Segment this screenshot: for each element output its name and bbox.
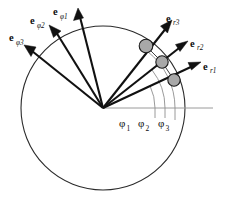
label-ephi2-base: e [30,15,35,26]
vector-diagram: e r1 e r2 e r3 e φ1 e φ2 e φ3 φ 1 [0,0,228,201]
label-ephi1-base: e [53,6,58,17]
label-ephi3-base: e [9,32,14,43]
label-phi1: φ 1 [119,117,131,133]
label-er3-base: e [166,13,171,24]
label-phi2-subscript: 2 [146,124,150,133]
figure-root: e r1 e r2 e r3 e φ1 e φ2 e φ3 φ 1 [0,0,228,201]
label-phi3-subscript: 3 [166,124,170,133]
label-ephi2: e φ2 [30,15,45,30]
vector-ephi3 [24,45,103,108]
label-er2: e r2 [190,38,204,52]
label-er1: e r1 [203,61,216,75]
vector-ephi1 [74,8,104,108]
label-er1-base: e [203,61,208,72]
vector-ephi2 [49,25,103,108]
label-ephi2-subscript: φ2 [37,22,45,30]
vector-ephi3-shaft [32,51,103,108]
vector-er3-shaft [103,27,167,108]
label-er2-subscript: r2 [197,44,204,52]
label-ephi3: e φ3 [9,32,24,47]
vector-ephi1-shaft [80,17,103,108]
label-ephi1-subscript: φ1 [60,13,68,21]
label-phi1-symbol: φ [119,117,125,129]
label-ephi3-subscript: φ3 [16,39,24,47]
node-dot-3[interactable] [139,39,153,53]
vector-ephi1-arrowhead [74,8,84,21]
label-phi3: φ 3 [158,117,170,133]
node-dot-2[interactable] [156,56,168,68]
label-phi2: φ 2 [138,117,150,133]
label-er2-base: e [190,38,195,49]
angle-arc-phi1 [150,86,155,108]
vector-ephi2-shaft [56,32,103,108]
vector-ephi3-arrowhead [24,45,36,57]
label-er3-subscript: r3 [173,19,180,27]
label-ephi1: e φ1 [53,6,68,21]
label-phi3-symbol: φ [158,117,164,129]
label-er1-subscript: r1 [210,67,216,75]
label-phi1-subscript: 1 [127,124,131,133]
label-phi2-symbol: φ [138,117,144,129]
angle-arc-phi2 [152,70,165,108]
vector-er1-arrowhead [188,62,201,70]
node-dot-1[interactable] [168,74,180,86]
